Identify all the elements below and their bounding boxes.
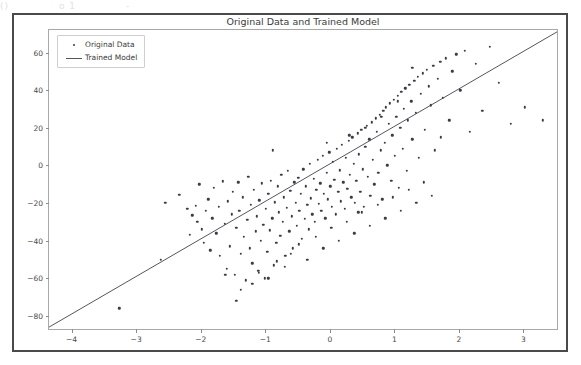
data-point [230, 213, 232, 215]
x-tick-mark [201, 329, 202, 333]
x-tick-mark [72, 329, 73, 333]
data-point [345, 157, 347, 159]
data-point [407, 119, 409, 121]
data-point [285, 207, 287, 209]
data-point [201, 228, 203, 230]
data-point [245, 279, 247, 281]
data-point [284, 255, 286, 257]
data-point [221, 180, 223, 182]
data-point [418, 157, 420, 159]
y-tick-label: −40 [27, 236, 43, 245]
plot-area: −80−60−40−200204060 −4−3−2−10123 Origina… [48, 29, 558, 330]
data-point [333, 178, 335, 180]
y-tick-mark [46, 165, 50, 166]
data-point [225, 268, 227, 270]
data-point [432, 65, 434, 67]
data-point [330, 226, 332, 228]
data-point [246, 219, 248, 221]
data-point [475, 63, 477, 65]
data-point [398, 187, 400, 189]
data-point [319, 182, 321, 184]
data-point [416, 76, 418, 78]
data-point [383, 142, 385, 144]
data-point [442, 97, 444, 99]
data-point [353, 232, 355, 234]
data-point [322, 247, 324, 249]
data-point [395, 115, 397, 117]
data-point [276, 185, 278, 187]
data-point [312, 177, 314, 179]
data-point [346, 188, 348, 190]
data-point [258, 199, 260, 201]
data-point [364, 127, 366, 129]
data-point [350, 196, 352, 198]
data-point [306, 258, 308, 260]
data-point [298, 209, 300, 211]
data-point [310, 197, 312, 199]
data-point [396, 95, 398, 97]
data-point [297, 176, 299, 178]
scatter-marker-icon [63, 44, 85, 47]
data-point [440, 136, 442, 138]
data-point [227, 200, 229, 202]
legend-label-original-data: Original Data [85, 41, 135, 49]
data-point [376, 130, 378, 132]
data-point [329, 185, 331, 187]
data-point [281, 221, 283, 223]
data-point [369, 194, 371, 196]
data-point [118, 307, 120, 309]
data-point [429, 104, 431, 106]
data-point [400, 209, 402, 211]
data-point [256, 215, 258, 217]
data-point [400, 91, 402, 93]
data-point [266, 251, 268, 253]
data-point [336, 147, 338, 149]
data-point [203, 241, 205, 243]
data-point [358, 153, 360, 155]
data-point [238, 209, 240, 211]
y-tick-label: 40 [33, 86, 43, 95]
data-point [291, 215, 293, 217]
data-point [368, 138, 370, 140]
y-tick-mark [46, 241, 50, 242]
data-point [209, 249, 211, 251]
data-point [451, 70, 453, 72]
data-point [410, 100, 412, 102]
data-point [316, 159, 318, 161]
data-point [361, 211, 363, 213]
data-point [314, 221, 316, 223]
data-point [293, 181, 295, 183]
data-point [278, 211, 280, 213]
data-point [314, 236, 316, 238]
data-point [234, 273, 236, 275]
x-tick-mark [523, 329, 524, 333]
data-point [194, 205, 196, 207]
data-point [298, 243, 300, 245]
data-point [411, 138, 413, 140]
data-point [327, 198, 329, 200]
x-tick-label: −2 [195, 335, 206, 344]
data-point [382, 110, 384, 112]
x-tick-label: 1 [392, 335, 397, 344]
x-tick-mark [265, 329, 266, 333]
x-tick-label: −4 [66, 335, 77, 344]
data-point [455, 53, 457, 55]
data-point [464, 49, 466, 51]
data-point [251, 262, 253, 264]
data-point [356, 132, 358, 134]
y-tick-label: 20 [33, 123, 43, 132]
data-point [241, 196, 243, 198]
data-point [254, 230, 256, 232]
data-point [159, 258, 161, 260]
data-point [262, 224, 264, 226]
data-point [348, 134, 350, 136]
data-point [232, 191, 234, 193]
data-point [164, 202, 166, 204]
data-point [340, 200, 342, 202]
data-point [302, 168, 304, 170]
data-point [355, 179, 357, 181]
data-point [272, 264, 274, 266]
legend-item-original-data: Original Data [63, 40, 137, 50]
y-tick-label: −80 [27, 311, 43, 320]
data-point [393, 98, 395, 100]
